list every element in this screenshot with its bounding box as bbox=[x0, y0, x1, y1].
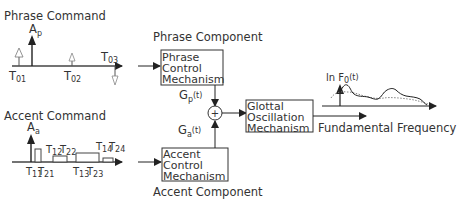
phrase-time-t01: T01 bbox=[8, 69, 26, 84]
plus-icon: + bbox=[211, 108, 219, 119]
phrase-time-t02: T02 bbox=[63, 69, 81, 84]
phrase-command-title: Phrase Command bbox=[4, 9, 106, 23]
glottal-box-line-3: Mechanism bbox=[247, 122, 310, 135]
phrase-offset-arrow-icon bbox=[112, 66, 118, 85]
phrase-time-t03: T03 bbox=[100, 50, 118, 65]
f0-total-contour bbox=[340, 85, 427, 105]
accent-pulse-4 bbox=[103, 158, 113, 162]
f0-axis-arrow-icon bbox=[336, 84, 344, 94]
accent-amplitude-arrow-icon bbox=[27, 134, 35, 162]
accent-box-line-3: Mechanism bbox=[163, 170, 226, 183]
accent-command-section: Accent Command Aa T11 T21 T12 T22 T13 T2… bbox=[4, 109, 125, 179]
accent-output-label: Ga(t) bbox=[178, 123, 201, 139]
f0-plot-label: ln F0(t) bbox=[326, 72, 359, 85]
accent-component-title: Accent Component bbox=[153, 185, 263, 199]
phrase-amplitude-arrow-icon bbox=[28, 35, 36, 66]
phrase-onset2-arrow-icon bbox=[69, 53, 75, 66]
sum-node: + bbox=[208, 106, 222, 120]
f0-contour-plot: ln F0(t) bbox=[322, 72, 436, 106]
phrase-amplitude-label: Ap bbox=[29, 22, 42, 38]
phrase-onset-arrow-icon bbox=[15, 48, 23, 66]
phrase-command-section: Phrase Command Ap T01 T02 T03 bbox=[4, 9, 122, 85]
fujisaki-model-diagram: Phrase Command Ap T01 T02 T03 Phrase bbox=[0, 0, 462, 205]
phrase-output-label: Gp(t) bbox=[179, 88, 202, 104]
phrase-box-line-3: Mechanism bbox=[162, 73, 225, 86]
accent-pulse-1 bbox=[35, 149, 41, 162]
glottal-section: Glottal Oscillation Mechanism bbox=[246, 100, 313, 135]
accent-command-title: Accent Command bbox=[4, 109, 106, 123]
fundamental-frequency-label: Fundamental Frequency bbox=[318, 121, 456, 135]
phrase-component-section: Phrase Component Phrase Control Mechanis… bbox=[153, 30, 263, 106]
phrase-component-title: Phrase Component bbox=[153, 30, 263, 44]
accent-pulse-3 bbox=[76, 153, 99, 162]
